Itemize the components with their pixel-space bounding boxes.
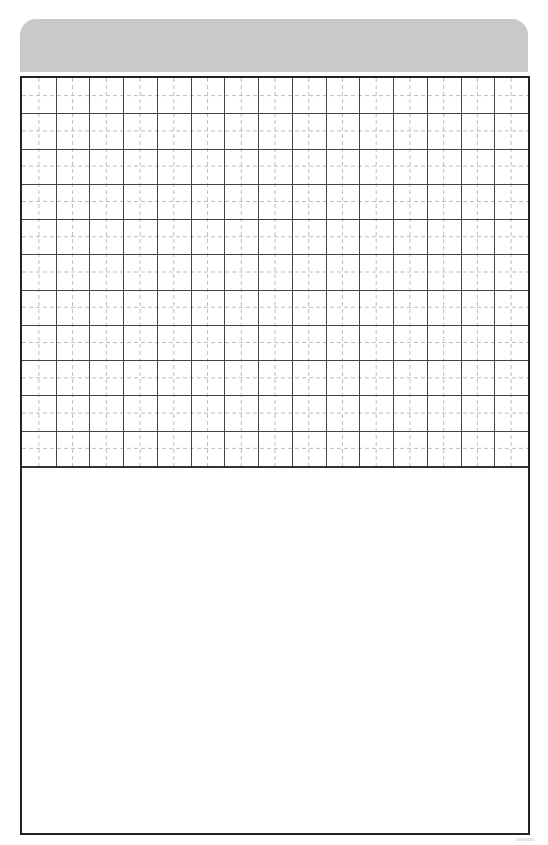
practice-sheet-frame bbox=[20, 76, 530, 835]
page-corner-mark bbox=[516, 838, 534, 841]
grid-lines bbox=[22, 78, 528, 466]
character-grid bbox=[22, 78, 528, 468]
blank-writing-area[interactable] bbox=[22, 468, 528, 833]
header-banner bbox=[20, 19, 528, 72]
